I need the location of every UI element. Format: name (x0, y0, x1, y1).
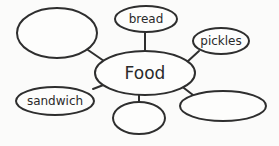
node-top: bread (115, 6, 177, 32)
node-center: Food (95, 51, 195, 95)
node-sandwich-label: sandwich (27, 94, 83, 108)
node-bread-label: bread (129, 12, 164, 26)
edge-center-top-left (88, 50, 104, 61)
node-pickles-label: pickles (200, 34, 241, 48)
node-left-bottom: sandwich (16, 87, 94, 115)
node-right-top: pickles (193, 28, 249, 54)
food-concept-web: bread pickles sandwich Food (0, 0, 279, 146)
node-top-left (17, 8, 97, 58)
node-bottom (113, 102, 165, 134)
center-label: Food (125, 63, 166, 83)
node-right-bottom (180, 91, 266, 121)
edge-center-right-top (187, 51, 199, 62)
diagram-svg: bread pickles sandwich Food (0, 0, 279, 146)
